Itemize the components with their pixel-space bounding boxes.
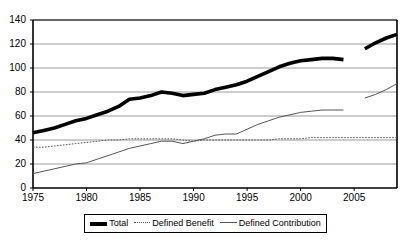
chart-container: 140120100806040200 197519801985199019952… xyxy=(0,0,413,252)
legend-item-defined-benefit: Defined Benefit xyxy=(134,219,214,228)
y-tick-label: 40 xyxy=(0,135,26,145)
series-line-total xyxy=(365,34,397,48)
y-tick-label: 140 xyxy=(0,15,26,25)
legend-item-defined-contribution: Defined Contribution xyxy=(220,219,321,228)
chart-legend: Total Defined Benefit Defined Contributi… xyxy=(84,214,327,233)
legend-item-total: Total xyxy=(90,219,128,228)
x-tick-label: 1995 xyxy=(230,193,264,203)
x-tick-label: 1985 xyxy=(123,193,157,203)
thin-solid-swatch-icon xyxy=(220,222,237,223)
y-tick-label: 80 xyxy=(0,87,26,97)
x-tick-label: 1980 xyxy=(70,193,104,203)
axis-ticks xyxy=(30,20,354,191)
series-line-defined-benefit xyxy=(33,138,397,148)
y-tick-label: 100 xyxy=(0,63,26,73)
legend-label-defined-contribution: Defined Contribution xyxy=(239,219,321,228)
y-tick-label: 120 xyxy=(0,39,26,49)
legend-label-total: Total xyxy=(109,219,128,228)
y-tick-label: 20 xyxy=(0,159,26,169)
series-line-total xyxy=(33,58,343,132)
series-line-defined-contribution xyxy=(365,84,397,98)
x-tick-label: 1990 xyxy=(177,193,211,203)
dotted-swatch-icon xyxy=(134,222,150,223)
data-series-layer xyxy=(33,34,397,173)
thick-solid-swatch-icon xyxy=(90,222,107,226)
x-tick-label: 2000 xyxy=(284,193,318,203)
x-tick-label: 2005 xyxy=(337,193,371,203)
y-tick-label: 60 xyxy=(0,111,26,121)
x-tick-label: 1975 xyxy=(16,193,50,203)
legend-label-defined-benefit: Defined Benefit xyxy=(152,219,214,228)
